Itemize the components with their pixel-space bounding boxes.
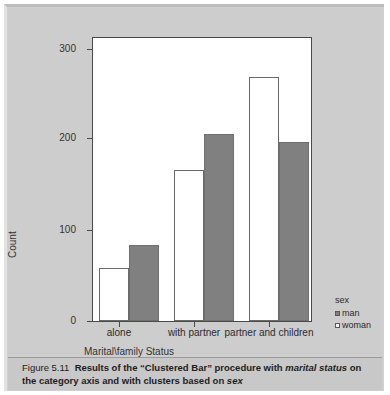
legend-item-man: man xyxy=(335,307,371,319)
x-axis-title: Marital\family Status xyxy=(84,346,174,357)
figure-page: 300 200 100 0 Count alone xyxy=(0,0,390,395)
y-tick-label-0: 0 xyxy=(26,316,76,326)
y-tick-label-200: 200 xyxy=(26,133,76,143)
bar-partner-and-children-man xyxy=(279,142,309,321)
caption-emphasis-marital-status: marital status xyxy=(285,362,347,373)
figure-caption-band: Figure 5.11 Results of the “Clustered Ba… xyxy=(8,357,382,390)
x-tick-label-partner-and-children: partner and children xyxy=(225,327,314,338)
bar-alone-man xyxy=(129,245,159,321)
legend-swatch-woman-icon xyxy=(335,323,340,328)
legend: sex man woman xyxy=(335,294,371,331)
bar-alone-woman xyxy=(99,268,129,321)
figure-caption: Figure 5.11 Results of the “Clustered Ba… xyxy=(22,362,374,388)
x-tick-label-with-partner: with partner xyxy=(168,327,220,338)
y-tick-label-100: 100 xyxy=(26,225,76,235)
y-axis-title: Count xyxy=(7,231,18,258)
plot-area xyxy=(92,37,312,322)
legend-swatch-man-icon xyxy=(335,311,340,316)
caption-emphasis-sex: sex xyxy=(227,375,243,386)
legend-title: sex xyxy=(335,294,371,306)
y-tick-label-300: 300 xyxy=(26,44,76,54)
legend-label-woman: woman xyxy=(342,319,371,331)
bar-with-partner-woman xyxy=(174,170,204,321)
legend-item-woman: woman xyxy=(335,319,371,331)
bar-with-partner-man xyxy=(204,134,234,321)
bar-partner-and-children-woman xyxy=(249,77,279,321)
x-tick-label-alone: alone xyxy=(107,327,131,338)
legend-label-man: man xyxy=(342,307,360,319)
caption-text-part1: Results of the “Clustered Bar” procedure… xyxy=(75,362,286,373)
chart-figure-area: 300 200 100 0 Count alone xyxy=(8,8,382,355)
figure-number: Figure 5.11 xyxy=(22,362,69,373)
bars-container xyxy=(93,38,311,321)
